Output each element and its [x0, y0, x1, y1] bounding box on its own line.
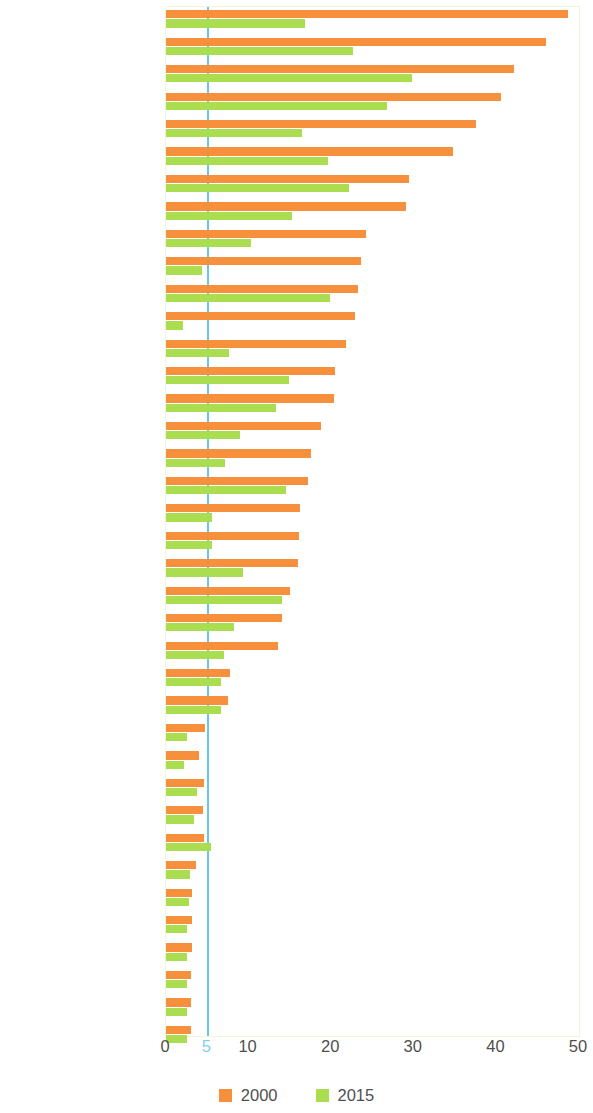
- x-tick-label: 10: [238, 1037, 256, 1055]
- bar-row: PRC: [166, 556, 579, 583]
- bar-2015: [166, 486, 286, 494]
- legend-swatch-icon: [316, 1089, 329, 1102]
- bar-2015: [166, 102, 387, 110]
- bar-row: Philippines: [166, 391, 579, 418]
- bar-2015: [166, 925, 187, 933]
- bar-2000: [166, 285, 358, 293]
- bar-2015: [166, 129, 302, 137]
- bar-row: Tajikistan: [166, 62, 579, 89]
- bar-2015: [166, 459, 225, 467]
- bar-row: Pakistan: [166, 282, 579, 309]
- bar-row: Afghanistan: [166, 34, 579, 61]
- bar-2015: [166, 596, 282, 604]
- bar-2015: [166, 568, 243, 576]
- bar-2000: [166, 147, 453, 155]
- bar-2000: [166, 642, 278, 650]
- x-axis: 051020304050: [165, 1037, 578, 1067]
- bar-2015: [166, 294, 330, 302]
- bar-row: Mongolia: [166, 144, 579, 171]
- bar-2015: [166, 321, 183, 329]
- bar-2015: [166, 47, 353, 55]
- bar-row: Fiji: [166, 776, 579, 803]
- x-tick-label: 5: [202, 1037, 211, 1055]
- bar-2015: [166, 376, 289, 384]
- bar-row: Solomon Islands: [166, 583, 579, 610]
- bar-2015: [166, 74, 412, 82]
- legend-item[interactable]: 2000: [219, 1086, 278, 1104]
- legend-swatch-icon: [219, 1089, 232, 1102]
- bar-2015: [166, 623, 234, 631]
- bar-2000: [166, 422, 321, 430]
- bar-row: Lao PDR: [166, 117, 579, 144]
- bar-row: Armenia: [166, 254, 579, 281]
- bar-2015: [166, 239, 251, 247]
- bar-2000: [166, 65, 514, 73]
- bar-2000: [166, 230, 366, 238]
- bar-2015: [166, 184, 349, 192]
- bar-2015: [166, 651, 224, 659]
- bar-row: Vanuatu: [166, 693, 579, 720]
- x-tick-label: 50: [569, 1037, 587, 1055]
- bar-2000: [166, 257, 361, 265]
- bar-row: Nepal: [166, 336, 579, 363]
- bar-2000: [166, 696, 228, 704]
- bar-2000: [166, 532, 299, 540]
- bar-2015: [166, 733, 187, 741]
- bar-row: Sri Lanka: [166, 172, 579, 199]
- bar-2000: [166, 834, 204, 842]
- bar-row: Malaysia: [166, 885, 579, 912]
- bar-row: New Zealand: [166, 995, 579, 1022]
- chart-legend: 20002015: [0, 1086, 593, 1104]
- bar-row: Turkmenistan: [166, 666, 579, 693]
- bar-row: Japan: [166, 968, 579, 995]
- bar-2015: [166, 761, 184, 769]
- bar-2015: [166, 19, 305, 27]
- bar-2000: [166, 449, 311, 457]
- bar-row: Kyrgyz Republic: [166, 529, 579, 556]
- bar-row: Australia: [166, 940, 579, 967]
- bar-2000: [166, 202, 406, 210]
- bar-2000: [166, 1026, 191, 1034]
- bar-row: Indonesia: [166, 446, 579, 473]
- horizontal-bar-chart: MyanmarAfghanistanTajikistanTimor-LesteL…: [0, 0, 593, 1113]
- bar-row: Myanmar: [166, 7, 579, 34]
- bar-2000: [166, 312, 355, 320]
- bar-row: Timor-Leste: [166, 89, 579, 116]
- bar-row: India: [166, 474, 579, 501]
- bar-2000: [166, 724, 205, 732]
- bar-2015: [166, 898, 189, 906]
- x-tick-label: 0: [160, 1037, 169, 1055]
- bar-2015: [166, 1008, 187, 1016]
- bar-2000: [166, 998, 191, 1006]
- legend-label: 2000: [241, 1086, 278, 1104]
- bar-2000: [166, 559, 298, 567]
- bar-2015: [166, 541, 212, 549]
- legend-item[interactable]: 2015: [316, 1086, 375, 1104]
- bar-2000: [166, 669, 230, 677]
- bar-2000: [166, 367, 335, 375]
- bar-2000: [166, 614, 282, 622]
- bar-row: Samoa: [166, 748, 579, 775]
- bar-2000: [166, 779, 204, 787]
- bar-2000: [166, 504, 300, 512]
- x-tick-label: 20: [321, 1037, 339, 1055]
- bar-row: Brunei Darussalam: [166, 858, 579, 885]
- bar-2015: [166, 953, 187, 961]
- bar-2000: [166, 38, 546, 46]
- bar-2015: [166, 431, 240, 439]
- bar-2015: [166, 157, 328, 165]
- bar-2015: [166, 404, 276, 412]
- x-tick-label: 40: [486, 1037, 504, 1055]
- bar-row: Taipei,China: [166, 831, 579, 858]
- bar-2000: [166, 340, 346, 348]
- x-tick-label: 30: [404, 1037, 422, 1055]
- bar-2000: [166, 861, 196, 869]
- bar-2015: [166, 266, 202, 274]
- bar-2000: [166, 751, 199, 759]
- bar-row: Uzbekistan: [166, 501, 579, 528]
- bar-row: Cambodia: [166, 199, 579, 226]
- bar-2015: [166, 678, 221, 686]
- bar-2000: [166, 943, 192, 951]
- bar-2000: [166, 971, 191, 979]
- bar-row: Azerbaijan: [166, 309, 579, 336]
